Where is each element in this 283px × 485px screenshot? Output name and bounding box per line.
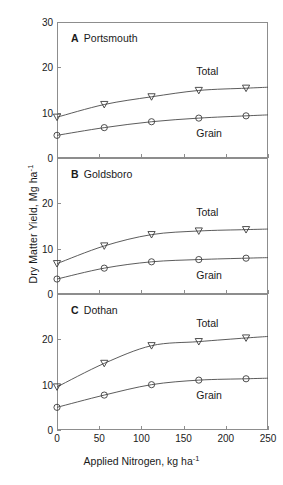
x-tick-label: 250 [260,430,277,444]
y-tick-label: 10 [27,107,57,118]
x-tick-label: 0 [54,430,60,444]
x-tick-label: 200 [217,430,234,444]
y-tick-label: 20 [27,62,57,73]
fitted-curve-grain [57,258,268,279]
series-label-total: Total [196,65,218,77]
x-axis-label: Applied Nitrogen, kg ha-1 [0,455,283,467]
panel-goldsboro: 01020B GoldsboroTotalGrain [57,158,268,294]
panel-portsmouth: 0102030A PortsmouthTotalGrain [57,22,268,158]
y-tick-label: 10 [27,379,57,390]
y-tick-label: 0 [27,425,57,436]
x-tick-label: 150 [175,430,192,444]
series-label-grain: Grain [196,269,222,281]
y-tick-label: 20 [27,334,57,345]
data-point-grain [54,404,60,410]
data-point-grain [54,276,60,282]
y-tick-label: 0 [27,153,57,164]
y-tick-label: 10 [27,243,57,254]
x-tick-label: 50 [94,430,105,444]
y-axis-label-exponent: -1 [26,165,35,172]
x-tick-mark [268,290,269,294]
series-layer [57,294,268,430]
x-tick-mark [268,154,269,158]
x-axis-label-text: Applied Nitrogen, kg ha [84,455,193,467]
y-tick-label: 20 [27,198,57,209]
fitted-curve-total [57,87,268,117]
y-tick-label: 0 [27,289,57,300]
series-label-total: Total [196,317,218,329]
series-label-total: Total [196,206,218,218]
fitted-curve-grain [57,378,268,407]
x-tick-label: 100 [133,430,150,444]
fitted-curve-grain [57,115,268,135]
series-layer [57,22,268,158]
panel-dothan: 01020050100150200250C DothanTotalGrain [57,294,268,430]
series-label-grain: Grain [196,127,222,139]
x-axis-label-exponent: -1 [193,454,200,463]
series-label-grain: Grain [196,389,222,401]
figure: Dry Matter Yield, Mg ha-1 Applied Nitrog… [0,0,283,485]
y-tick-label: 30 [27,17,57,28]
data-point-total [53,261,60,267]
y-axis-label-text: Dry Matter Yield, Mg ha [27,171,39,283]
series-layer [57,158,268,294]
